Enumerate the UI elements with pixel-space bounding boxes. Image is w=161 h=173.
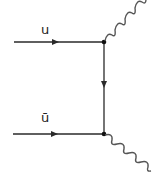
label-ubar: ū — [41, 111, 49, 124]
feynman-diagram — [0, 0, 161, 173]
outgoing-photon-bottom — [105, 135, 151, 172]
vertex-bottom — [102, 132, 107, 137]
outgoing-photon-top — [105, 0, 146, 41]
arrow-icon — [101, 81, 107, 88]
label-u: u — [41, 23, 49, 36]
arrow-icon — [51, 131, 58, 137]
arrow-icon — [52, 39, 59, 45]
